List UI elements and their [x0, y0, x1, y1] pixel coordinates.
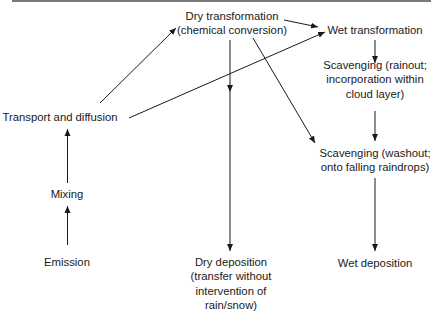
- node-emission: Emission: [44, 255, 90, 269]
- node-line: (chemical conversion): [177, 23, 287, 37]
- node-line: Transport and diffusion: [3, 110, 118, 124]
- node-line: Dry transformation: [177, 9, 287, 23]
- node-line: Scavenging (washout;: [319, 146, 430, 160]
- edge-dry-transformation-washout: [253, 38, 315, 143]
- node-line: rain/snow): [191, 298, 272, 312]
- edge-dry-to-wet-transformation: [284, 20, 318, 27]
- node-line: Dry deposition: [191, 255, 272, 269]
- node-mixing: Mixing: [51, 187, 84, 201]
- node-line: onto falling raindrops): [319, 160, 430, 174]
- node-line: Emission: [44, 255, 90, 269]
- node-line: Wet deposition: [338, 256, 413, 270]
- node-transport-diffusion: Transport and diffusion: [3, 110, 118, 124]
- node-scavenging-rainout: Scavenging (rainout; incorporation withi…: [323, 58, 427, 101]
- node-wet-deposition: Wet deposition: [338, 256, 413, 270]
- node-line: cloud layer): [323, 87, 427, 101]
- node-line: Scavenging (rainout;: [323, 58, 427, 72]
- edge-transport-dry-transformation: [100, 28, 176, 103]
- node-line: Wet transformation: [327, 23, 422, 37]
- node-scavenging-washout: Scavenging (washout; onto falling raindr…: [319, 146, 430, 175]
- node-line: intervention of: [191, 284, 272, 298]
- node-line: Mixing: [51, 187, 84, 201]
- node-dry-deposition: Dry deposition (transfer without interve…: [191, 255, 272, 312]
- node-wet-transformation: Wet transformation: [327, 23, 422, 37]
- node-line: (transfer without: [191, 269, 272, 283]
- node-line: incorporation within: [323, 72, 427, 86]
- node-dry-transformation: Dry transformation (chemical conversion): [177, 9, 287, 38]
